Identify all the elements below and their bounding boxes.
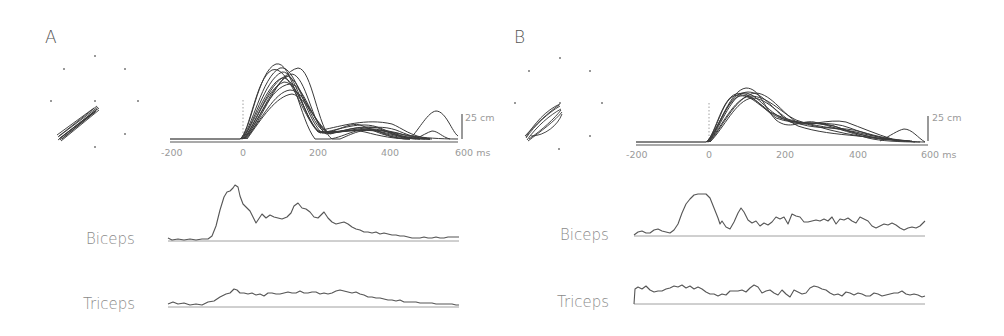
emg-label-biceps: Biceps (560, 226, 609, 244)
panel-a-label: A (45, 27, 57, 47)
panel-a-emg: Biceps Triceps (83, 185, 459, 313)
x-tick-label: -200 (626, 149, 648, 160)
velocity-scale-label: 25 cm (465, 112, 495, 123)
x-tick-label: 200 (309, 147, 327, 158)
x-tick-label: 400 (381, 147, 399, 158)
panel-a: A (45, 27, 495, 313)
panel-b-hand-paths (525, 104, 562, 141)
panel-a-target-array (50, 55, 139, 148)
x-tick-label: 400 (849, 149, 867, 160)
panel-b-label: B (514, 27, 525, 47)
x-tick-label: 200 (776, 149, 794, 160)
x-tick-label: 600 ms (455, 147, 490, 158)
panel-a-hand-paths (57, 106, 99, 141)
panel-a-velocity-plot: 25 cm -200 0 200 400 600 ms (161, 64, 495, 158)
x-tick-label: 0 (240, 147, 246, 158)
x-tick-label: 0 (706, 149, 712, 160)
panel-b: B (514, 27, 962, 311)
panel-b-velocity-plot: 25 cm -200 0 200 400 600 ms (626, 88, 962, 160)
x-tick-label: 600 ms (921, 149, 956, 160)
emg-label-biceps: Biceps (86, 230, 135, 248)
figure: A (0, 0, 1004, 336)
panel-b-emg: Biceps Triceps (557, 194, 925, 311)
emg-label-triceps: Triceps (83, 295, 135, 313)
velocity-scale-label: 25 cm (932, 112, 962, 123)
x-tick-label: -200 (161, 147, 183, 158)
emg-label-triceps: Triceps (557, 293, 609, 311)
